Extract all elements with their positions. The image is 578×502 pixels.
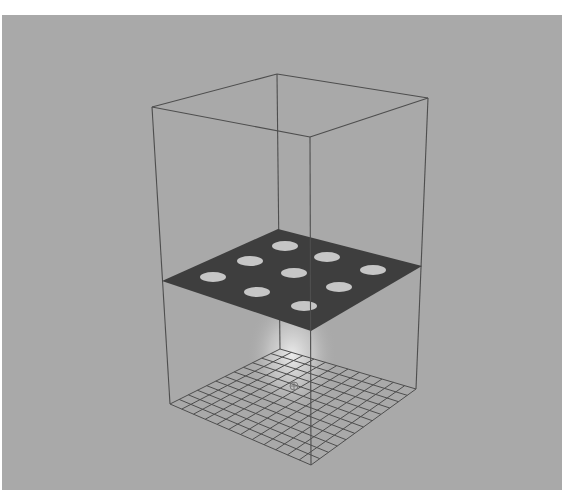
plate-hole xyxy=(291,301,317,311)
origin-marker-icon xyxy=(290,382,298,390)
plate-hole xyxy=(326,282,352,292)
plate-hole xyxy=(237,256,263,266)
plate-hole xyxy=(200,272,226,282)
scene-canvas[interactable] xyxy=(0,0,578,502)
plate-hole xyxy=(314,252,340,262)
plate-hole xyxy=(244,287,270,297)
plate-hole xyxy=(360,265,386,275)
plate-hole xyxy=(281,268,307,278)
plate-hole xyxy=(272,241,298,251)
perforated-plate[interactable] xyxy=(162,229,422,331)
